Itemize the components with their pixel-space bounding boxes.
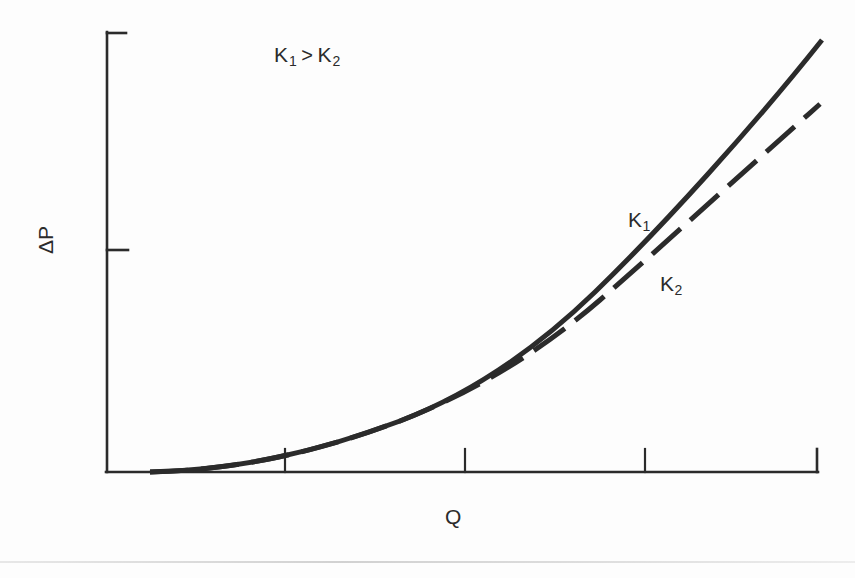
data-curve-k1 xyxy=(150,40,822,472)
plot-area xyxy=(0,0,855,578)
series-k2-subscript: 2 xyxy=(674,282,682,298)
series-callout-k2: K2 xyxy=(660,272,682,298)
condition-annotation: K1>K2 xyxy=(274,43,341,69)
figure-canvas: K1>K2 ΔP Q K1 K2 xyxy=(0,0,855,578)
y-axis-label: ΔP xyxy=(34,210,58,270)
condition-k1-symbol: K xyxy=(274,43,289,66)
series-k1-subscript: 1 xyxy=(642,218,650,234)
series-callout-k1: K1 xyxy=(628,208,650,234)
x-axis-label: Q xyxy=(445,505,461,529)
series-k1-symbol: K xyxy=(628,208,642,231)
page-scan-rule xyxy=(0,561,855,563)
condition-k2-symbol: K xyxy=(318,43,333,66)
condition-operator: > xyxy=(297,44,317,66)
series-k2-symbol: K xyxy=(660,272,674,295)
condition-k2-subscript: 2 xyxy=(332,53,341,69)
condition-k1-subscript: 1 xyxy=(289,53,298,69)
